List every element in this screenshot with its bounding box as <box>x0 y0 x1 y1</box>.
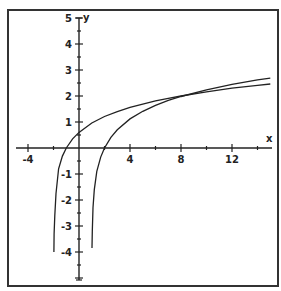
x-tick-label: 8 <box>178 154 185 165</box>
curves <box>54 78 270 252</box>
y-tick-label: -4 <box>61 247 72 258</box>
y-tick-label: 2 <box>65 91 72 102</box>
y-tick-label: -1 <box>61 169 72 180</box>
x-tick-label: 12 <box>225 154 239 165</box>
y-axis-label: y <box>83 12 90 23</box>
x-tick-label: -4 <box>22 154 33 165</box>
y-tick-label: 1 <box>65 117 72 128</box>
y-tick-label: 3 <box>65 65 72 76</box>
y-tick-label: -3 <box>61 221 72 232</box>
y-tick-label: -2 <box>61 195 72 206</box>
y-tick-label: 4 <box>65 39 72 50</box>
x-tick-label: 4 <box>127 154 134 165</box>
y-tick-label: 5 <box>65 13 72 24</box>
curve-curve-left-asymptote-x=-2 <box>54 84 270 252</box>
x-axis-label: x <box>266 133 273 144</box>
function-plot: -4481254321-1-2-3-4 x y <box>0 0 281 291</box>
